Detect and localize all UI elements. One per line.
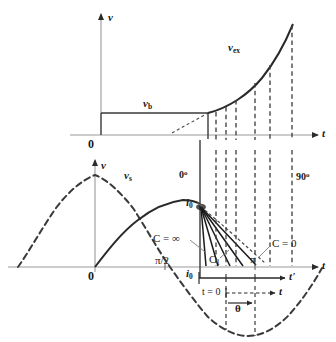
current-label-i0-lower: i0 <box>186 268 193 280</box>
vs-dashed-sinusoid <box>18 175 322 336</box>
ramp-dashed-line <box>172 113 208 133</box>
figure-canvas: v t 0 vb vex v t t' t 0 vs π/2 π 0o 90o … <box>0 0 336 342</box>
t-second-axis-label: t <box>279 286 282 297</box>
t-second-axis <box>226 288 275 298</box>
angle-marker-ninety: 90o <box>296 172 310 182</box>
tick-label-pi: π <box>250 254 256 265</box>
c1-sub: 1 <box>216 258 220 267</box>
upper-t-axis-label: t <box>322 128 325 139</box>
tick-label-pi-half: π/2 <box>155 255 169 266</box>
diagram-svg <box>0 0 336 342</box>
theta-angle-label: θ <box>235 303 241 314</box>
i0-lower-sub: 0 <box>189 272 193 281</box>
capacitance-zero-label: C = 0 <box>272 238 297 249</box>
vs-curve-label: vs <box>124 170 132 182</box>
vb-label-sub: b <box>148 102 152 111</box>
fan-origin-node <box>196 204 206 210</box>
i0-upper-sub: 0 <box>189 201 193 210</box>
vex-curve-label: vex <box>228 42 240 54</box>
vex-curve <box>208 24 293 113</box>
lower-t-axis-label: t <box>322 260 325 271</box>
vex-label-sub: ex <box>233 46 240 55</box>
lower-origin-label: 0 <box>88 270 94 282</box>
capacitance-c1-label: C1 <box>209 254 220 266</box>
vb-curve-label: vb <box>143 98 152 110</box>
vb-curve <box>101 113 208 135</box>
t-prime-axis <box>199 272 285 284</box>
t-prime-axis-label: t' <box>289 271 295 282</box>
vs-solid-halfcycle <box>95 200 200 267</box>
vs-label-sub: s <box>129 174 132 183</box>
angle-ninety-value: 90 <box>296 171 306 182</box>
time-zero-label: t = 0 <box>202 287 220 297</box>
upper-plot-axes <box>70 14 318 135</box>
current-label-i0-upper: i0 <box>186 197 193 209</box>
upper-origin-label: 0 <box>88 138 94 150</box>
angle-zero-degree: o <box>184 169 188 177</box>
angle-ninety-degree: o <box>306 171 310 179</box>
angle-marker-zero: 0o <box>179 170 188 180</box>
capacitance-infinite-label: C = ∞ <box>153 233 180 244</box>
lower-v-axis-label: v <box>101 160 106 171</box>
upper-v-axis-label: v <box>108 12 113 23</box>
